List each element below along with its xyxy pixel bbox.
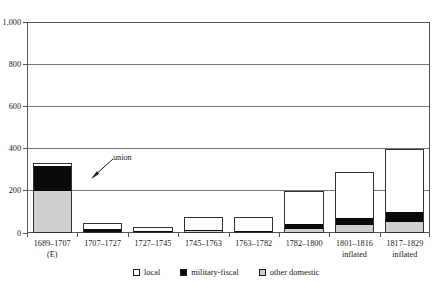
bar-segment-other-domestic bbox=[33, 191, 72, 233]
bar-segment-other-domestic bbox=[335, 225, 374, 233]
x-axis-tick-mark bbox=[27, 233, 28, 237]
y-axis-tick-label: 400 bbox=[9, 144, 21, 153]
x-axis-tick-label: 1763–1782 bbox=[235, 238, 272, 249]
y-axis-tick-label: 800 bbox=[9, 60, 21, 69]
legend-label: local bbox=[144, 268, 160, 277]
black-square-swatch-icon bbox=[180, 269, 187, 276]
bar-segment-local bbox=[234, 217, 273, 230]
x-axis-period-label: 1745–1763 bbox=[185, 239, 222, 248]
legend-item-local: local bbox=[133, 268, 160, 277]
bar-segment-local bbox=[335, 172, 374, 218]
x-axis-period-label: 1763–1782 bbox=[235, 239, 272, 248]
x-axis-tick-mark bbox=[229, 233, 230, 237]
stacked-bar-chart: 1,000 800 600 400 200 0 union 1689–1707(… bbox=[0, 0, 447, 294]
x-axis-period-label: 1801–1816 bbox=[336, 239, 373, 248]
x-axis-tick-mark bbox=[128, 233, 129, 237]
x-axis-tick-label: 1727–1745 bbox=[135, 238, 172, 249]
bar-segment-local bbox=[284, 191, 323, 224]
x-axis-sublabel: inflated bbox=[386, 249, 423, 260]
legend-item-other-domestic: other domestic bbox=[259, 268, 320, 277]
chart-legend: local military-fiscal other domestic bbox=[133, 268, 319, 277]
bar-segment-other-domestic bbox=[385, 222, 424, 233]
x-axis-tick-label: 1745–1763 bbox=[185, 238, 222, 249]
y-axis: 1,000 800 600 400 200 0 bbox=[0, 0, 27, 294]
union-annotation-label: union bbox=[113, 153, 132, 162]
bar-1745-1763 bbox=[184, 217, 223, 233]
x-axis-sublabel: (E) bbox=[34, 249, 71, 260]
x-axis-period-label: 1689–1707 bbox=[34, 239, 71, 248]
bar-segment-military-fiscal bbox=[33, 166, 72, 191]
x-axis-tick-label: 1801–1816inflated bbox=[336, 238, 373, 260]
y-axis-tick-label: 200 bbox=[9, 186, 21, 195]
x-axis-labels: 1689–1707(E)1707–17271727–17451745–17631… bbox=[27, 238, 430, 272]
bar-1782-1800 bbox=[284, 191, 323, 233]
x-axis-period-label: 1817–1829 bbox=[386, 239, 423, 248]
bar-1689-1707 bbox=[33, 163, 72, 233]
x-axis-period-label: 1727–1745 bbox=[135, 239, 172, 248]
x-axis-tick-mark bbox=[329, 233, 330, 237]
x-axis-tick-mark bbox=[380, 233, 381, 237]
x-axis-tick-label: 1707–1727 bbox=[84, 238, 121, 249]
white-square-swatch-icon bbox=[133, 269, 140, 276]
bar-segment-military-fiscal bbox=[385, 212, 424, 223]
y-axis-tick-label: 0 bbox=[17, 229, 21, 238]
x-axis-tick-mark bbox=[77, 233, 78, 237]
bar-segment-local bbox=[184, 217, 223, 230]
bar-1763-1782 bbox=[234, 217, 273, 233]
legend-item-military-fiscal: military-fiscal bbox=[180, 268, 238, 277]
gray-square-swatch-icon bbox=[259, 269, 266, 276]
x-axis-tick-label: 1689–1707(E) bbox=[34, 238, 71, 260]
bar-segment-local bbox=[385, 149, 424, 212]
x-axis-tick-mark bbox=[279, 233, 280, 237]
x-axis-tick-mark bbox=[429, 233, 430, 237]
x-axis-period-label: 1707–1727 bbox=[84, 239, 121, 248]
bar-1801-1816 bbox=[335, 172, 374, 233]
bar-1817-1829 bbox=[385, 149, 424, 233]
y-axis-tick-label: 600 bbox=[9, 102, 21, 111]
legend-label: military-fiscal bbox=[191, 268, 238, 277]
x-axis-tick-label: 1782–1800 bbox=[286, 238, 323, 249]
x-axis-tick-mark bbox=[178, 233, 179, 237]
y-axis-tick-label: 1,000 bbox=[3, 18, 21, 27]
x-axis-sublabel: inflated bbox=[336, 249, 373, 260]
x-axis-period-label: 1782–1800 bbox=[286, 239, 323, 248]
x-axis-tick-label: 1817–1829inflated bbox=[386, 238, 423, 260]
bar-1707-1727 bbox=[83, 223, 122, 233]
legend-label: other domestic bbox=[270, 268, 320, 277]
bar-group bbox=[27, 22, 430, 233]
bar-segment-military-fiscal bbox=[335, 218, 374, 225]
